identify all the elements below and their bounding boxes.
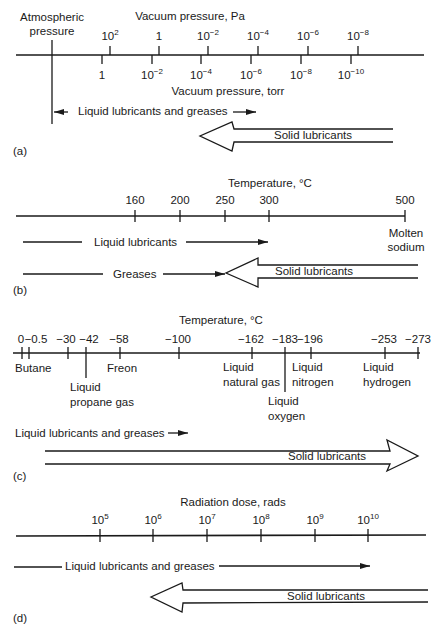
freon-label: Freon xyxy=(107,362,137,375)
temp-tick-label: −253 xyxy=(371,333,397,346)
radiation-tick-label: 108 xyxy=(252,514,269,527)
temp-tick-label: −183 xyxy=(272,333,298,346)
temp-tick-label: 160 xyxy=(125,194,144,207)
greases-label: Greases xyxy=(113,268,156,281)
temp-tick-label: −58 xyxy=(109,333,129,346)
pa-axis-title: Vacuum pressure, Pa xyxy=(135,10,245,23)
torr-tick-label: 10−8 xyxy=(290,69,312,82)
temp-tick-label: 0 xyxy=(18,333,24,346)
temp-tick-label: 300 xyxy=(259,194,278,207)
pa-tick-label: 10−8 xyxy=(347,30,369,43)
liquid-natural-gas-label: Liquid natural gas xyxy=(223,360,280,390)
solid-lubricants-label: Solid lubricants xyxy=(287,590,365,603)
liquid-lubricants-greases-label: Liquid lubricants and greases xyxy=(15,427,165,440)
radiation-tick-label: 106 xyxy=(144,514,161,527)
temp-tick-label: −30 xyxy=(56,333,76,346)
temperature-axis-title-c: Temperature, °C xyxy=(179,314,263,327)
radiation-tick-label: 1010 xyxy=(357,514,379,527)
torr-tick-label: 10−10 xyxy=(338,69,364,82)
radiation-axis-title: Radiation dose, rads xyxy=(180,496,285,509)
liquid-hydrogen-label: Liquid hydrogen xyxy=(363,360,411,390)
panel-tag-c: (c) xyxy=(13,470,26,483)
pa-tick-label: 10−6 xyxy=(297,30,319,43)
panel-tag-d: (d) xyxy=(13,612,27,625)
torr-tick-label: 10−2 xyxy=(141,69,163,82)
pa-tick-label: 10−2 xyxy=(197,30,219,43)
temp-tick-label: −273 xyxy=(405,333,431,346)
torr-tick-label: 10−4 xyxy=(190,69,212,82)
atmospheric-pressure-label: Atmospheric pressure xyxy=(20,10,84,38)
temp-tick-label: −42 xyxy=(79,333,99,346)
temp-tick-label: 200 xyxy=(170,194,189,207)
liquid-propane-gas-label: Liquid propane gas xyxy=(70,380,134,410)
liquid-lubricants-greases-label: Liquid lubricants and greases xyxy=(78,105,228,118)
temp-tick-label: 500 xyxy=(395,194,414,207)
torr-axis-title: Vacuum pressure, torr xyxy=(172,85,285,98)
temp-tick-label: −100 xyxy=(165,333,191,346)
temperature-axis-title-b: Temperature, °C xyxy=(228,177,312,190)
molten-sodium-label: Molten sodium xyxy=(387,226,424,254)
temp-tick-label: 250 xyxy=(215,194,234,207)
radiation-tick-label: 107 xyxy=(198,514,215,527)
liquid-nitrogen-label: Liquid nitrogen xyxy=(292,360,334,390)
solid-lubricants-label: Solid lubricants xyxy=(275,265,353,278)
panel-tag-b: (b) xyxy=(13,284,27,297)
radiation-tick-label: 109 xyxy=(306,514,323,527)
temp-tick-label: −162 xyxy=(238,333,264,346)
torr-tick-label: 10−6 xyxy=(240,69,262,82)
butane-label: Butane xyxy=(15,362,51,375)
pa-tick-label: 102 xyxy=(101,30,118,43)
radiation-axis xyxy=(16,535,426,536)
pa-tick-label: 1 xyxy=(156,30,162,43)
temp-tick-label: −0.5 xyxy=(25,333,48,346)
temp-tick-label: −196 xyxy=(297,333,323,346)
liquid-lubricants-greases-label: Liquid lubricants and greases xyxy=(65,560,215,573)
liquid-lubricants-label: Liquid lubricants xyxy=(94,236,177,249)
torr-tick-label: 1 xyxy=(99,69,105,82)
pa-tick-label: 10−4 xyxy=(247,30,269,43)
solid-lubricants-label: Solid lubricants xyxy=(288,450,366,463)
liquid-oxygen-label: Liquid oxygen xyxy=(268,394,305,424)
radiation-tick-label: 105 xyxy=(91,514,108,527)
solid-lubricants-label: Solid lubricants xyxy=(274,129,352,142)
panel-tag-a: (a) xyxy=(13,145,27,158)
